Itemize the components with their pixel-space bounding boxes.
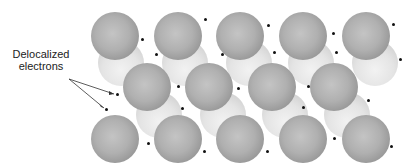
label-line-1: Delocalized [6,48,76,60]
label-line-2: electrons [6,60,76,72]
metal-lattice-diagram: Delocalized electrons [0,0,407,167]
label-pointer-arrows [0,0,407,167]
delocalized-electrons-label: Delocalized electrons [6,48,76,72]
